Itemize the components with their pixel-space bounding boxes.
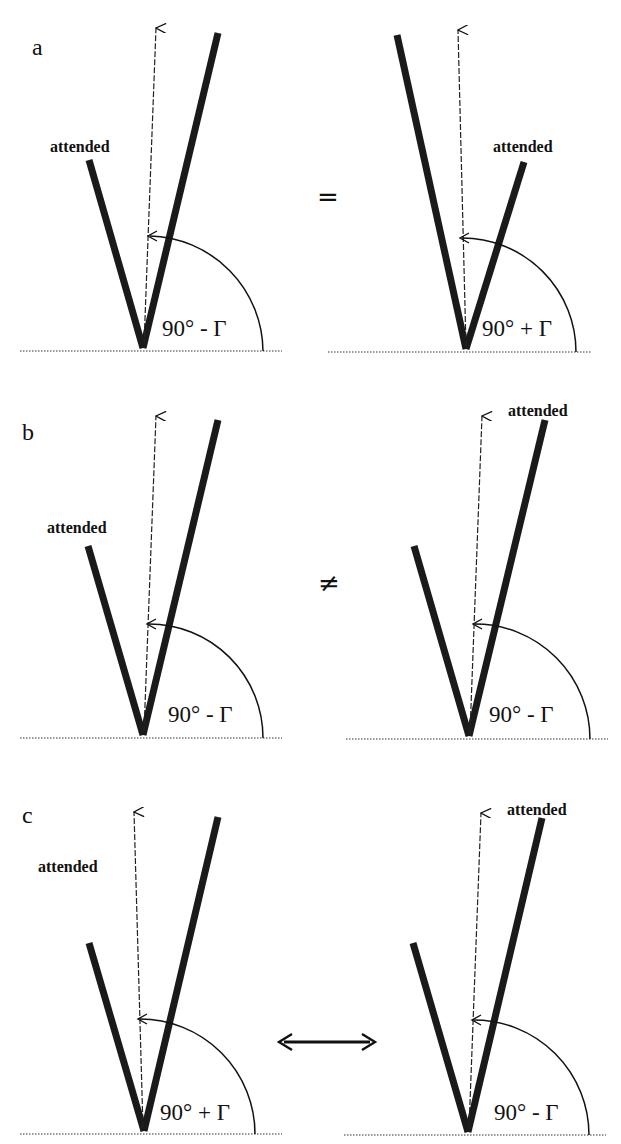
dashed-reference-arrow	[458, 30, 466, 346]
left-bar	[413, 943, 468, 1132]
panel-c: c attended 90° + Γ attended 90° - Γ	[20, 801, 606, 1135]
attended-label: attended	[493, 138, 553, 155]
attended-label: attended	[38, 858, 98, 875]
panel-a: a attended 90° - Γ = attended 90° + Γ	[20, 28, 592, 352]
panel-b: b attended 90° - Γ ≠ attended 90° - Γ	[20, 402, 608, 739]
left-bar	[414, 546, 469, 736]
diagram-left: attended 90° + Γ	[20, 812, 282, 1134]
panel-label: a	[32, 34, 43, 60]
attended-label: attended	[50, 138, 110, 155]
panel-label: b	[22, 419, 34, 445]
left-bar	[89, 160, 143, 348]
angle-label: 90° - Γ	[489, 702, 554, 727]
angle-label: 90° + Γ	[160, 1100, 230, 1125]
relation-symbol: ≠	[318, 568, 340, 598]
angle-label: 90° - Γ	[168, 702, 233, 727]
right-bar	[144, 817, 218, 1131]
attended-label: attended	[508, 402, 568, 419]
figure-canvas: a attended 90° - Γ = attended 90° + Γ b	[0, 0, 621, 1144]
angle-label: 90° - Γ	[162, 316, 227, 341]
dashed-reference-arrow	[134, 812, 143, 1128]
diagram-right: attended 90° + Γ	[328, 30, 592, 352]
double-arrow-icon	[279, 1034, 375, 1050]
left-bar	[89, 943, 144, 1131]
relation-symbol: =	[317, 182, 339, 212]
diagram-right: attended 90° - Γ	[344, 801, 606, 1135]
left-bar	[88, 546, 143, 735]
diagram-left: attended 90° - Γ	[20, 28, 282, 351]
angle-label: 90° - Γ	[494, 1100, 559, 1125]
left-bar	[397, 35, 466, 349]
diagram-left: attended 90° - Γ	[20, 416, 282, 738]
attended-label: attended	[507, 801, 567, 818]
attended-label: attended	[47, 519, 107, 536]
diagram-right: attended 90° - Γ	[346, 402, 608, 739]
angle-label: 90° + Γ	[482, 316, 552, 341]
panel-label: c	[22, 802, 33, 828]
